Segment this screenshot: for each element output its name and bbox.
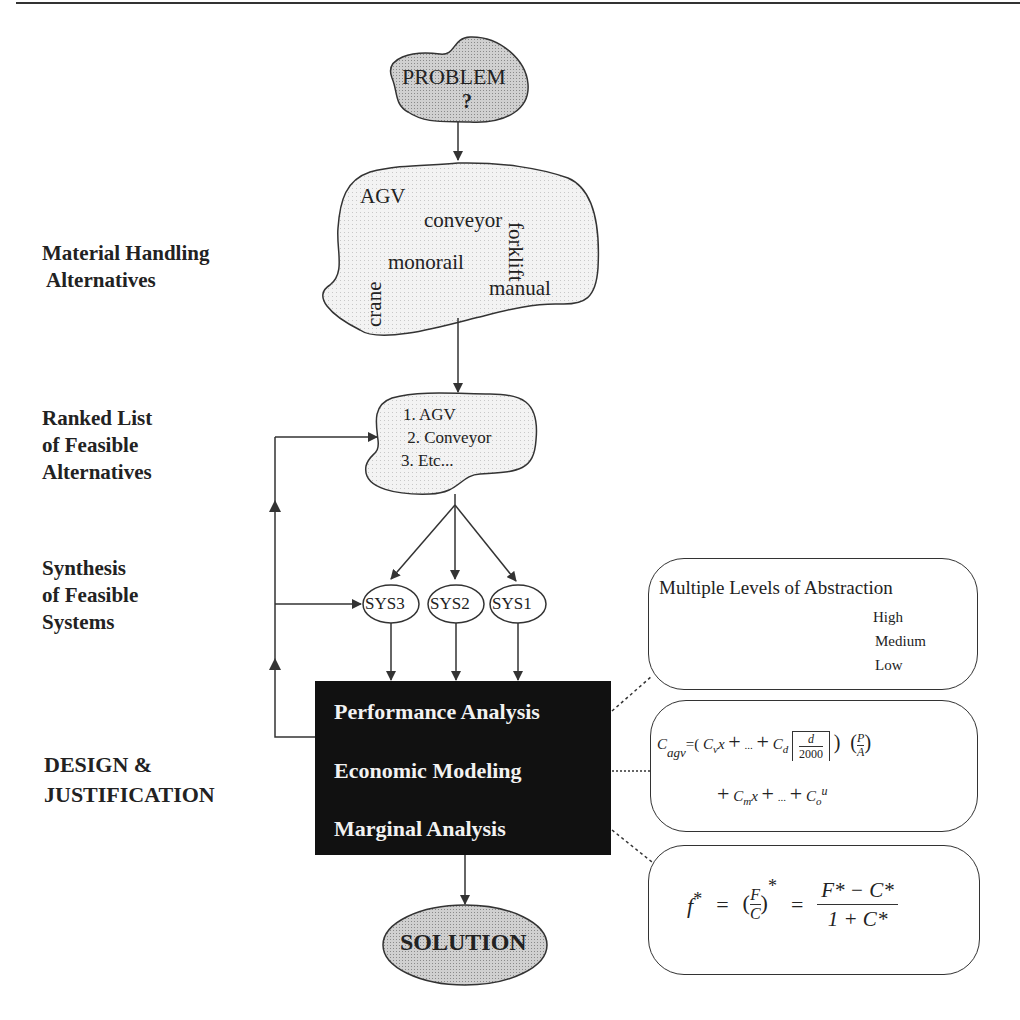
- math-symbol: +: [762, 781, 774, 806]
- math-symbol: 2000: [799, 746, 823, 761]
- label-material-handling: Material Handling Alternatives: [42, 240, 209, 294]
- math-symbol: x: [751, 788, 758, 804]
- label-synthesis: Synthesis of Feasible Systems: [42, 555, 138, 636]
- label-line: JUSTIFICATION: [44, 780, 215, 810]
- math-symbol: C: [806, 788, 816, 804]
- math-symbol: +: [717, 781, 729, 806]
- feedback-line: [275, 437, 315, 737]
- math-symbol: x: [718, 736, 725, 752]
- label-line: Systems: [42, 609, 138, 636]
- math-denominator: 1 + C*: [817, 904, 898, 933]
- sys1-label: SYS1: [492, 594, 532, 614]
- sys2-label: SYS2: [430, 594, 470, 614]
- math-symbol: =: [716, 892, 728, 918]
- cost-formula-line2: + Cmx + ... + Cou: [717, 781, 827, 807]
- label-line: of Feasible: [42, 432, 152, 459]
- economic-modeling-label: Economic Modeling: [334, 758, 522, 784]
- label-line: Alternatives: [42, 267, 209, 294]
- label-line: Ranked List: [42, 405, 152, 432]
- math-symbol: *: [768, 876, 777, 896]
- marginal-analysis-label: Marginal Analysis: [334, 816, 506, 842]
- cost-formula-box: Cagv=( Cvx + ... + Cd d 2000 ) (PA) + Cm…: [650, 700, 978, 832]
- alt-crane: crane: [362, 282, 387, 327]
- problem-title: PROBLEM: [402, 64, 506, 90]
- problem-question-mark: ?: [462, 90, 472, 113]
- marginal-formula: f* = (FC)* = F* − C* 1 + C*: [687, 876, 898, 933]
- abstraction-title: Multiple Levels of Abstraction: [659, 577, 893, 599]
- label-line: Material Handling: [42, 240, 209, 267]
- alt-conveyor: conveyor: [424, 208, 502, 233]
- cost-formula-line1: Cagv=( Cvx + ... + Cd d 2000 ) (PA): [657, 729, 871, 761]
- abstraction-box: Multiple Levels of Abstraction High Medi…: [648, 558, 978, 690]
- level-high: High: [873, 609, 903, 626]
- level-medium: Medium: [875, 633, 926, 650]
- math-symbol: C: [750, 904, 761, 923]
- math-symbol: u: [821, 784, 827, 798]
- math-symbol: +: [790, 781, 802, 806]
- sys3-label: SYS3: [365, 594, 405, 614]
- math-symbol: F: [750, 886, 761, 904]
- alt-manual: manual: [489, 276, 551, 301]
- label-line: of Feasible: [42, 582, 138, 609]
- label-line: Synthesis: [42, 555, 138, 582]
- marginal-formula-box: f* = (FC)* = F* − C* 1 + C*: [648, 845, 980, 975]
- label-line: DESIGN &: [44, 750, 215, 780]
- math-symbol: ...: [778, 791, 786, 803]
- alt-agv: AGV: [360, 184, 406, 209]
- math-symbol: C: [657, 736, 667, 752]
- performance-analysis-label: Performance Analysis: [334, 699, 540, 725]
- math-subscript: d: [783, 743, 789, 755]
- ranked-item-2: 2. Conveyor: [403, 428, 491, 448]
- math-symbol: ...: [745, 739, 753, 751]
- label-line: Alternatives: [42, 459, 152, 486]
- math-symbol: C: [703, 736, 713, 752]
- math-symbol: *: [693, 889, 702, 909]
- math-symbol: =(: [686, 736, 699, 752]
- math-symbol: +: [728, 729, 740, 754]
- ranked-item-1: 1. AGV: [403, 405, 456, 425]
- math-subscript: agv: [667, 745, 686, 760]
- label-ranked-list: Ranked List of Feasible Alternatives: [42, 405, 152, 486]
- alt-forklift: forklift: [503, 222, 528, 281]
- math-symbol: =: [791, 892, 803, 918]
- math-subscript: m: [743, 795, 751, 807]
- math-symbol: C: [773, 736, 783, 752]
- ranked-item-3: 3. Etc...: [401, 451, 453, 471]
- math-symbol: d: [799, 732, 823, 746]
- level-low: Low: [875, 657, 903, 674]
- math-numerator: F* − C*: [817, 876, 898, 904]
- math-symbol: +: [757, 729, 769, 754]
- alt-monorail: monorail: [388, 250, 464, 275]
- solution-title: SOLUTION: [400, 929, 527, 956]
- label-design-justification: DESIGN & JUSTIFICATION: [44, 750, 215, 810]
- math-symbol: C: [733, 788, 743, 804]
